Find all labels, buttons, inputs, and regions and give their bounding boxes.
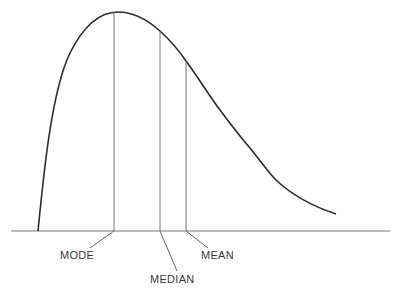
mode-leader bbox=[90, 231, 114, 248]
mean-label: MEAN bbox=[201, 249, 234, 261]
mode-label: MODE bbox=[60, 249, 94, 261]
median-leader bbox=[160, 231, 177, 271]
mean-leader bbox=[186, 231, 208, 248]
distribution-curve bbox=[38, 12, 336, 231]
median-label: MEDIAN bbox=[150, 273, 195, 285]
